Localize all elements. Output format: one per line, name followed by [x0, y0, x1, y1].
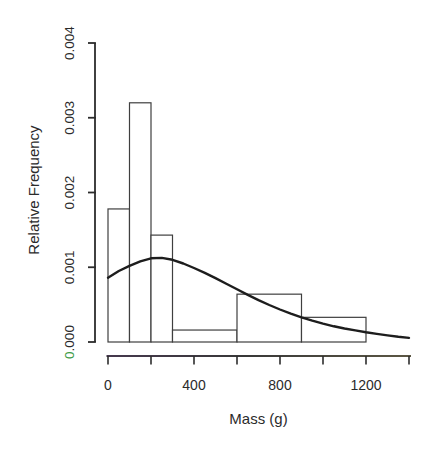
histogram-bar: [237, 294, 302, 342]
x-tick-label: 400: [182, 377, 206, 393]
histogram-bar: [130, 103, 152, 342]
histogram-figure: 0.0000.0010.0020.0030.00404008001200 Mas…: [0, 0, 428, 452]
x-axis: 04008001200: [104, 356, 411, 393]
plot-canvas: 0.0000.0010.0020.0030.00404008001200: [0, 0, 428, 452]
y-tick-label: 0.000: [62, 325, 77, 359]
histogram-bars: [108, 103, 366, 342]
y-tick-label: 0.004: [62, 26, 77, 60]
histogram-bar: [151, 235, 173, 342]
y-tick-label: 0.002: [62, 176, 77, 210]
y-axis: 0.0000.0010.0020.0030.004: [62, 26, 96, 359]
x-axis-title: Mass (g): [108, 410, 409, 428]
histogram-bar: [173, 330, 238, 342]
x-tick-label: 1200: [350, 377, 381, 393]
y-tick-label: 0.003: [62, 101, 77, 135]
x-tick-label: 0: [104, 377, 112, 393]
y-axis-title: Relative Frequency: [25, 90, 43, 290]
y-tick-zero-green-char: 0: [62, 351, 77, 359]
x-tick-label: 800: [268, 377, 292, 393]
y-tick-label: 0.001: [62, 250, 77, 284]
